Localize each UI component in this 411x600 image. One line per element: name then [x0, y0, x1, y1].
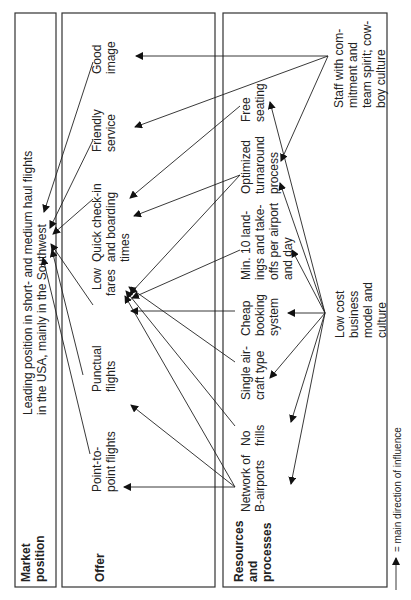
svg-text:craft type: craft type: [253, 350, 267, 400]
svg-text:process: process: [267, 152, 281, 194]
offer-punctual: Punctual flights: [90, 345, 118, 392]
svg-text:and boarding: and boarding: [104, 192, 118, 262]
svg-text:turnaround: turnaround: [253, 136, 267, 194]
svg-text:mitment and: mitment and: [346, 42, 360, 108]
svg-text:Staff with com-: Staff with com-: [332, 29, 346, 108]
svg-text:ings and take-: ings and take-: [253, 205, 267, 280]
svg-text:Free: Free: [239, 97, 253, 122]
svg-text:Single air-: Single air-: [239, 346, 253, 400]
svg-text:service: service: [104, 114, 118, 152]
staff-arrows: [135, 56, 328, 161]
svg-text:Low: Low: [90, 268, 104, 290]
svg-text:culture: culture: [375, 302, 389, 338]
svg-text:Optimized: Optimized: [239, 140, 253, 194]
svg-text:Min. 10 land-: Min. 10 land-: [239, 211, 253, 280]
offer-good-image: Good image: [90, 41, 118, 74]
svg-text:Quick check-in: Quick check-in: [90, 183, 104, 262]
svg-text:position: position: [33, 535, 47, 582]
svg-text:fares: fares: [104, 269, 118, 296]
offer-label: Offer: [93, 553, 107, 582]
svg-text:Market: Market: [19, 543, 33, 582]
offer-low-fares: Low fares: [90, 268, 118, 296]
driver-low-cost: Low cost business model and culture: [333, 282, 389, 338]
svg-text:model and: model and: [361, 282, 375, 338]
svg-text:system: system: [267, 298, 281, 336]
resource-cheap-booking: Cheap booking system: [239, 294, 281, 336]
legend: = main direction of influence: [392, 427, 403, 590]
svg-text:B-airports: B-airports: [253, 460, 267, 512]
svg-text:business: business: [347, 291, 361, 338]
svg-text:No: No: [239, 430, 253, 446]
offer-box: [62, 13, 215, 587]
offer-quick-checkin: Quick check-in and boarding times: [90, 183, 132, 262]
svg-text:team spirit; cow-: team spirit; cow-: [360, 21, 374, 108]
resource-min-landings: Min. 10 land- ings and take- offs per ai…: [239, 202, 295, 280]
svg-text:seating: seating: [253, 83, 267, 122]
svg-text:Good: Good: [90, 45, 104, 74]
svg-text:and: and: [246, 561, 260, 582]
market-position-label: Market position: [19, 535, 47, 582]
resource-free-seating: Free seating: [239, 83, 267, 122]
svg-text:point flights: point flights: [104, 431, 118, 492]
svg-text:processes: processes: [260, 522, 274, 582]
business-model-diagram: Market position Offer Resources and proc…: [0, 0, 411, 600]
offer-friendly-service: Friendly service: [90, 109, 118, 152]
market-position-text: Leading position in short- and medium ha…: [21, 151, 49, 415]
svg-text:Network of: Network of: [239, 454, 253, 512]
svg-text:Friendly: Friendly: [90, 109, 104, 152]
offer-to-market-arrows: [43, 62, 93, 454]
offer-point-to-point: Point-to- point flights: [90, 431, 118, 492]
svg-text:Punctual: Punctual: [90, 345, 104, 392]
svg-text:Point-to-: Point-to-: [90, 447, 104, 492]
svg-text:Resources: Resources: [232, 520, 246, 582]
svg-text:= main direction of influence: = main direction of influence: [392, 427, 403, 552]
resources-label: Resources and processes: [232, 520, 274, 582]
svg-text:booking: booking: [253, 294, 267, 336]
svg-text:times: times: [118, 233, 132, 262]
svg-text:Low cost: Low cost: [333, 290, 347, 338]
svg-text:offs per airport: offs per airport: [267, 202, 281, 280]
b-airports-arrows: [124, 296, 235, 487]
svg-text:boy culture: boy culture: [374, 49, 388, 108]
svg-text:Leading position in short- and: Leading position in short- and medium ha…: [21, 151, 35, 415]
driver-staff: Low cost Staff with com- mitment and tea…: [332, 21, 388, 108]
svg-text:flights: flights: [104, 361, 118, 392]
resource-b-airports: Network of B-airports: [239, 454, 267, 512]
svg-text:image: image: [104, 41, 118, 74]
svg-text:in the USA, mainly in the Sout: in the USA, mainly in the Southwest: [35, 224, 49, 415]
resource-no-frills: No frills: [239, 425, 267, 446]
svg-text:Cheap: Cheap: [239, 300, 253, 336]
svg-text:and day: and day: [281, 237, 295, 280]
svg-text:frills: frills: [253, 425, 267, 446]
resource-turnaround: Optimized turnaround process: [239, 136, 281, 194]
resource-single-aircraft: Single air- craft type: [239, 346, 267, 400]
svg-text:Offer: Offer: [93, 553, 107, 582]
